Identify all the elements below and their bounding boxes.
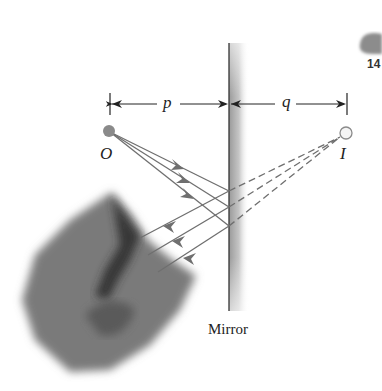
image-label: I bbox=[340, 145, 346, 162]
mirror-diagram bbox=[0, 0, 382, 391]
object-point bbox=[103, 125, 115, 137]
image-point bbox=[340, 127, 352, 139]
object-label: O bbox=[100, 145, 112, 162]
mirror-label: Mirror bbox=[208, 322, 248, 337]
corner-badge-icon bbox=[360, 33, 382, 54]
observer-eye bbox=[22, 192, 196, 372]
dimension-label-p: p bbox=[163, 94, 172, 111]
corner-badge-number: 14 bbox=[367, 57, 380, 71]
dimension-label-q: q bbox=[282, 93, 291, 110]
